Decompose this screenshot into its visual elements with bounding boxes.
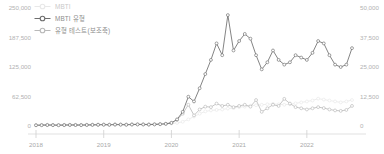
x-axis-tick-label: 2019 bbox=[97, 141, 111, 148]
y-axis-tick-label: 0 bbox=[28, 122, 32, 129]
legend-item-1[interactable]: MBTI bbox=[34, 1, 110, 12]
y2-axis-tick-label: 0 bbox=[360, 122, 364, 129]
search-trend-chart: 250,000187,500125,00062,500050,00037,500… bbox=[0, 0, 384, 154]
y-axis-tick-label: 187,500 bbox=[9, 34, 32, 41]
y-axis-tick-label: 62,500 bbox=[12, 93, 31, 100]
x-axis-tick-label: 2018 bbox=[29, 141, 43, 148]
open-circle-icon bbox=[34, 14, 51, 23]
legend-item-label: MBTI 유형 bbox=[55, 14, 85, 23]
legend-item-label: MBTI bbox=[55, 2, 71, 11]
open-circle-icon bbox=[34, 2, 51, 11]
legend-item-2[interactable]: MBTI 유형 bbox=[34, 13, 110, 24]
y-axis-tick-label: 125,000 bbox=[9, 63, 32, 70]
open-circle-icon bbox=[34, 26, 51, 35]
chart-legend: MBTIMBTI 유형유형 테스트(보조축) bbox=[34, 1, 110, 36]
x-axis-tick-label: 2020 bbox=[165, 141, 179, 148]
x-axis-tick-label: 2022 bbox=[300, 141, 314, 148]
y2-axis-tick-label: 12,500 bbox=[360, 93, 379, 100]
y-axis-tick-label: 250,000 bbox=[9, 4, 32, 11]
legend-item-3[interactable]: 유형 테스트(보조축) bbox=[34, 25, 110, 36]
y2-axis-tick-label: 37,500 bbox=[360, 34, 379, 41]
legend-item-label: 유형 테스트(보조축) bbox=[55, 26, 110, 35]
x-axis-tick-label: 2021 bbox=[232, 141, 246, 148]
axis-layer bbox=[28, 130, 366, 138]
y2-axis-tick-label: 50,000 bbox=[360, 4, 379, 11]
y2-axis-tick-label: 25,000 bbox=[360, 63, 379, 70]
